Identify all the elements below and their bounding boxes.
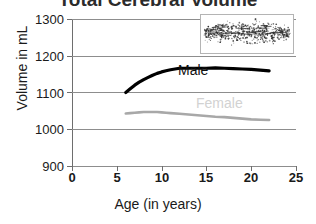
chart-title: Total Cerebral Volume [0,0,316,11]
x-tick-label-25: 25 [281,170,311,185]
x-tick-label-15: 15 [191,170,221,185]
gridline-900 [72,166,296,167]
x-axis-title: Age (in years) [0,196,316,212]
series-label-male: Male [178,62,208,78]
series-label-female: Female [196,95,243,111]
chart-root: Total Cerebral Volume 1300 1200 1100 100… [0,0,316,224]
scatter-inset-points [201,15,293,53]
x-tick-label-5: 5 [102,170,132,185]
x-tick-label-10: 10 [147,170,177,185]
series-line-female [126,112,269,120]
y-axis-title: Volume in mL [14,3,30,133]
x-tick-label-0: 0 [57,170,87,185]
x-tick-label-20: 20 [236,170,266,185]
scatter-inset [200,14,294,54]
